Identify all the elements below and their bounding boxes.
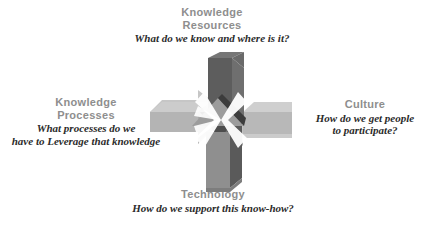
quadrant-heading-knowledge-resources: Knowledge Resources: [132, 6, 292, 31]
quadrant-question-knowledge-processes: What processes do we have to Leverage th…: [2, 122, 170, 147]
quadrant-heading-knowledge-processes: Knowledge Processes: [2, 96, 170, 121]
four-converging-arrows-graphic: [148, 50, 294, 192]
quadrant-heading-culture: Culture: [306, 98, 424, 111]
quadrant-label-knowledge-processes: Knowledge Processes What processes do we…: [2, 96, 170, 147]
quadrant-label-knowledge-resources: Knowledge Resources What do we know and …: [132, 6, 292, 45]
quadrant-question-technology: How do we support this know-how?: [118, 202, 308, 215]
quadrant-question-knowledge-resources: What do we know and where is it?: [132, 32, 292, 45]
quadrant-question-culture: How do we get people to participate?: [306, 112, 424, 137]
diagram-canvas: Knowledge Resources What do we know and …: [0, 0, 424, 231]
quadrant-label-culture: Culture How do we get people to particip…: [306, 98, 424, 137]
